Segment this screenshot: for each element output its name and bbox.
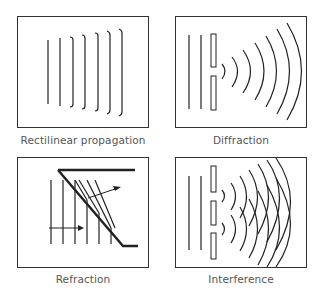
caption-diffraction: Diffraction [161, 134, 321, 146]
rectilinear-propagation-diagram [18, 17, 149, 128]
diffraction-diagram [176, 17, 307, 128]
caption-refraction: Refraction [3, 273, 163, 285]
caption-rectilinear-propagation: Rectilinear propagation [3, 134, 163, 146]
interference-diagram [176, 158, 307, 268]
refraction-diagram [18, 158, 149, 268]
caption-interference: Interference [161, 273, 321, 285]
wave-diagrams [0, 0, 326, 295]
